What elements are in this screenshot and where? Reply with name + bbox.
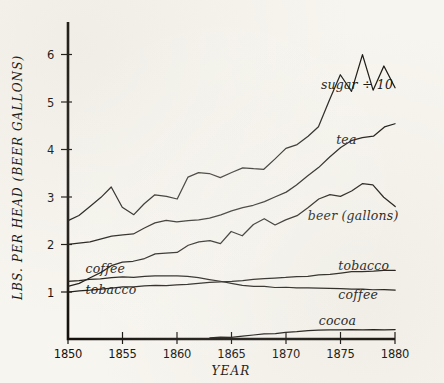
y-tick-label: 2 xyxy=(47,238,54,252)
series-labels: sugar ÷ 10teabeer (gallons)coffeecoffeet… xyxy=(85,77,398,329)
x-tick-label: 1865 xyxy=(217,347,245,361)
y-tick-label: 3 xyxy=(47,191,54,205)
series-label-cocoa: cocoa xyxy=(319,313,357,328)
y-tick-label: 5 xyxy=(47,96,54,110)
y-tick-label: 1 xyxy=(47,286,54,300)
consumption-line-chart: 123456 1850185518601865187018751880 suga… xyxy=(0,0,444,383)
series-label-tobacco-right: tobacco xyxy=(338,258,389,273)
x-tick-label: 1870 xyxy=(272,347,300,361)
series-label-tea: tea xyxy=(336,132,356,147)
series-label-coffee-right: coffee xyxy=(338,287,378,302)
x-tick-label: 1875 xyxy=(326,347,354,361)
x-tick-label: 1880 xyxy=(381,347,409,361)
x-axis-ticks: 1850185518601865187018751880 xyxy=(54,332,409,361)
y-axis-title: LBS. PER HEAD (BEER GALLONS) xyxy=(11,55,25,301)
series-label-tobacco-left: tobacco xyxy=(85,282,136,297)
x-axis-title: YEAR xyxy=(212,364,251,378)
x-tick-label: 1860 xyxy=(163,347,191,361)
y-tick-label: 4 xyxy=(47,143,54,157)
series-label-sugar: sugar ÷ 10 xyxy=(321,77,393,92)
x-tick-label: 1855 xyxy=(108,347,136,361)
series-label-coffee-left: coffee xyxy=(85,261,125,276)
series-line-cocoa xyxy=(210,330,395,338)
x-tick-label: 1850 xyxy=(54,347,82,361)
chart-figure: 123456 1850185518601865187018751880 suga… xyxy=(0,0,444,383)
y-tick-label: 6 xyxy=(47,48,54,62)
series-label-beergallons: beer (gallons) xyxy=(308,208,399,223)
